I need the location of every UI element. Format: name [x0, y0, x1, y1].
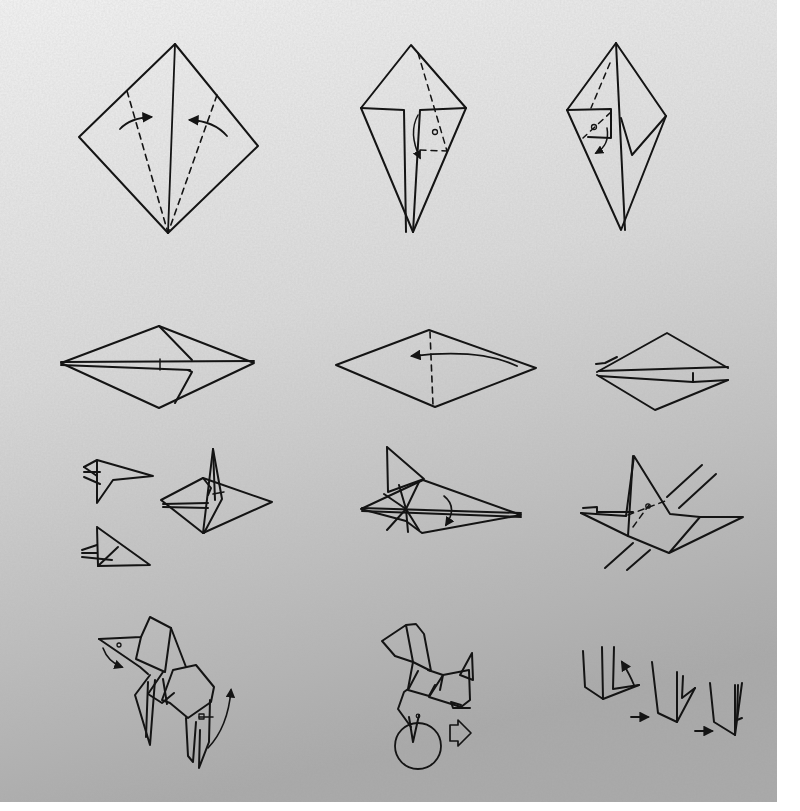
step-2-squash-fold: [361, 45, 466, 232]
step-4-horizontal-diamond: [61, 326, 254, 408]
step-12-finished-dog: [382, 624, 473, 769]
step-1-kite-fold: [79, 44, 258, 233]
step-7-head-details: [82, 460, 153, 566]
step-13-leg-detail-sequence: [583, 647, 742, 735]
fold-arrow-icon: [103, 648, 122, 667]
detail-circle-icon: [395, 723, 441, 769]
step-9-fold-flap-down: [361, 447, 521, 533]
step-11-shape-head-and-tail: [99, 617, 231, 768]
step-3-squash-fold: [567, 43, 666, 230]
diagram-canvas: [0, 0, 777, 802]
step-5-valley-fold: [336, 330, 536, 407]
fold-arrow-icon: [596, 128, 608, 153]
fold-arrow-icon: [622, 662, 634, 685]
step-8-reverse-fold-neck: [161, 449, 272, 533]
fold-arrow-icon: [190, 120, 227, 136]
step-10-fold-legs: [581, 456, 743, 570]
next-step-arrow-icon: [450, 720, 471, 746]
step-6-folded-result: [596, 333, 728, 410]
paper-sheet: [0, 0, 777, 802]
